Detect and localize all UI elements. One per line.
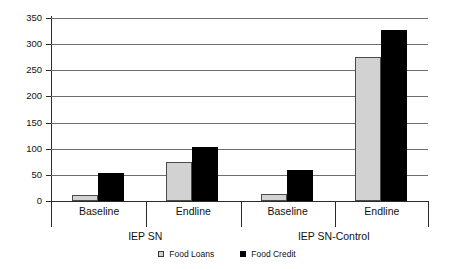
gridline [51, 44, 428, 45]
bar-food-credit-1 [192, 147, 218, 201]
y-tick-label: 100 [26, 144, 42, 154]
gridline [51, 18, 428, 19]
group-axis: IEP SNIEP SN-Control [51, 227, 429, 249]
legend-item[interactable]: Food Credit [240, 250, 295, 259]
y-tick-mark [46, 123, 51, 124]
y-tick-label: 250 [26, 66, 42, 76]
bar-chart: 050100150200250300350 BaselineEndlineBas… [0, 0, 454, 269]
bar-food-credit-2 [287, 170, 313, 201]
y-tick-label: 300 [26, 39, 42, 49]
category-axis: BaselineEndlineBaselineEndline [51, 201, 429, 227]
bar-food-loans-2 [261, 194, 287, 201]
group-label: IEP SN-Control [240, 230, 429, 243]
y-tick-mark [46, 44, 51, 45]
chart-legend: Food LoansFood Credit [0, 250, 454, 259]
category-label: Endline [146, 205, 240, 218]
category-label: Baseline [52, 205, 146, 218]
y-tick-label: 200 [26, 92, 42, 102]
bar-food-loans-3 [355, 57, 381, 201]
y-tick-label: 50 [31, 170, 42, 180]
y-tick-mark [46, 175, 51, 176]
y-tick-mark [46, 18, 51, 19]
category-label: Baseline [241, 205, 335, 218]
y-tick-label: 350 [26, 13, 42, 23]
legend-item[interactable]: Food Loans [158, 250, 214, 259]
bar-food-credit-3 [381, 30, 407, 201]
category-label: Endline [335, 205, 429, 218]
square-light-marker [158, 251, 164, 257]
legend-label: Food Loans [169, 250, 214, 259]
y-tick-mark [46, 149, 51, 150]
group-label: IEP SN [51, 230, 240, 243]
square-black-marker [240, 251, 246, 257]
bar-food-loans-1 [166, 162, 192, 201]
plot-area: 050100150200250300350 [51, 18, 428, 201]
y-tick-label: 0 [37, 196, 42, 206]
legend-label: Food Credit [251, 250, 295, 259]
y-tick-mark [46, 70, 51, 71]
bar-food-credit-0 [98, 173, 124, 201]
y-tick-label: 150 [26, 118, 42, 128]
y-tick-mark [46, 96, 51, 97]
